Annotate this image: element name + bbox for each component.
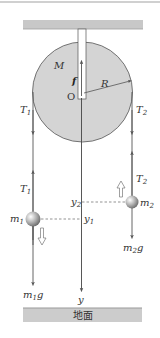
mass-2-motion-arrow-icon <box>117 181 125 197</box>
atwood-diagram: M R O f T1 T1 m1 y1 m1g T2 T2 m2 y2 m2g … <box>0 0 160 338</box>
pulley-mass-label: M <box>53 60 65 71</box>
mass-1-label: m1 <box>10 213 24 226</box>
y-axis-label: y <box>77 294 84 305</box>
axle-rod <box>78 29 86 99</box>
position-2-label: y2 <box>70 196 82 209</box>
ground-label: 地面 <box>73 309 93 321</box>
left-tension-bottom-label: T1 <box>20 183 31 196</box>
center-label: O <box>67 91 75 102</box>
mass-2-label: m2 <box>140 197 154 210</box>
mass-1-weight-label: m1g <box>23 289 43 302</box>
right-tension-bottom-label: T2 <box>136 173 148 186</box>
mass-2-weight-label: m2g <box>123 242 143 255</box>
mass-1-ball <box>26 212 41 227</box>
left-tension-top-label: T1 <box>20 104 31 117</box>
radius-label: R <box>100 78 109 89</box>
position-1-label: y1 <box>83 213 94 226</box>
right-tension-top-label: T2 <box>136 104 148 117</box>
mass-1-motion-arrow-icon <box>38 228 46 245</box>
ceiling <box>23 20 143 29</box>
mass-2-ball <box>126 196 139 209</box>
